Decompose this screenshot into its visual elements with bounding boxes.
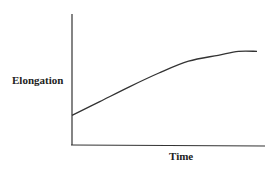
chart: Elongation Time (0, 0, 274, 170)
elongation-curve (72, 51, 257, 115)
y-axis-label: Elongation (12, 74, 63, 86)
x-axis (71, 145, 265, 146)
x-axis-label: Time (169, 150, 193, 162)
